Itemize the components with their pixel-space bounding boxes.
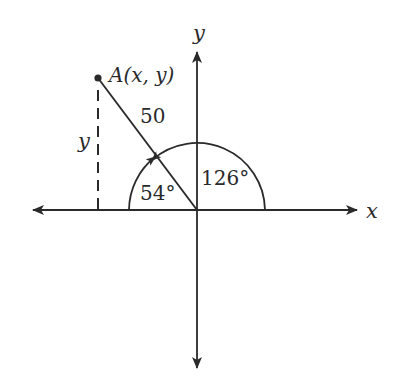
angle-54-label: 54° [140, 181, 175, 205]
point-a-icon [94, 74, 101, 81]
dashed-line-y-label: y [77, 129, 91, 153]
coordinate-diagram: y x A(x, y) 50 y 54° 126° [0, 0, 401, 391]
x-axis-label: x [366, 199, 378, 223]
segment-length-label: 50 [140, 104, 165, 128]
diagram-canvas: y x A(x, y) 50 y 54° 126° [0, 0, 401, 391]
angle-126-label: 126° [201, 166, 249, 190]
point-a-label: A(x, y) [107, 63, 174, 87]
y-axis-label: y [192, 21, 206, 45]
